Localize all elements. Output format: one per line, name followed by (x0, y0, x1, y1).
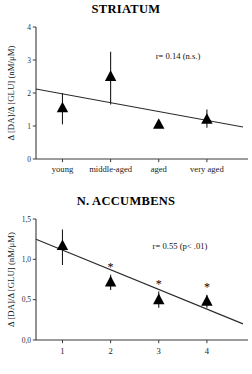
significance-star-2: * (156, 277, 162, 291)
significance-star-1: * (108, 260, 114, 274)
data-marker-0 (57, 102, 68, 113)
striatum-plot-area: 01234youngmiddle-agedagedvery agedr= 0.1… (0, 17, 252, 179)
y-axis-label: Δ [DA]/Δ [GLU] (nM/μM) (6, 232, 16, 327)
y-tick-label-2: 2 (27, 89, 31, 98)
data-marker-1 (105, 70, 116, 81)
y-tick-label-3: 3 (27, 56, 31, 65)
regression-line (36, 89, 243, 127)
x-tick-label-3: very aged (190, 164, 224, 174)
data-marker-1 (105, 276, 116, 287)
y-tick-label-1: 0,5 (22, 295, 32, 304)
x-tick-label-1: middle-aged (89, 164, 133, 174)
y-tick-label-3: 1,5 (22, 215, 32, 224)
data-marker-2 (153, 293, 164, 304)
accumbens-svg: 0,00,51,01,51234***r= 0.55 (p< .01)Δ [DA… (0, 209, 252, 367)
y-tick-label-0: 0,0 (22, 336, 32, 345)
x-tick-label-1: 2 (108, 346, 112, 356)
x-tick-label-2: 3 (157, 346, 161, 356)
stat-annotation: r= 0.14 (n.s.) (156, 51, 201, 61)
stat-annotation: r= 0.55 (p< .01) (153, 241, 208, 251)
significance-star-3: * (204, 280, 210, 294)
accumbens-figure: N. ACCUMBENS 0,00,51,01,51234***r= 0.55 … (0, 188, 252, 374)
data-marker-3 (201, 113, 212, 124)
x-tick-label-2: aged (151, 164, 168, 174)
regression-line (36, 239, 243, 324)
y-axis-label: Δ [DA]/Δ [GLU] (nM/μM) (6, 45, 16, 140)
striatum-figure: STRIATUM 01234youngmiddle-agedagedvery a… (0, 0, 252, 190)
striatum-chart-title: STRIATUM (0, 0, 252, 17)
x-tick-label-0: 1 (60, 346, 64, 356)
data-marker-3 (201, 295, 212, 306)
striatum-svg: 01234youngmiddle-agedagedvery agedr= 0.1… (0, 17, 252, 179)
y-tick-label-4: 4 (27, 23, 31, 32)
data-marker-0 (57, 239, 68, 250)
accumbens-plot-area: 0,00,51,01,51234***r= 0.55 (p< .01)Δ [DA… (0, 209, 252, 367)
y-tick-label-2: 1,0 (22, 255, 32, 264)
x-tick-label-0: young (52, 164, 74, 174)
x-tick-label-3: 4 (205, 346, 210, 356)
data-marker-2 (153, 118, 164, 129)
y-tick-label-1: 1 (27, 122, 31, 131)
y-tick-label-0: 0 (27, 155, 31, 164)
accumbens-chart-title: N. ACCUMBENS (0, 188, 252, 209)
